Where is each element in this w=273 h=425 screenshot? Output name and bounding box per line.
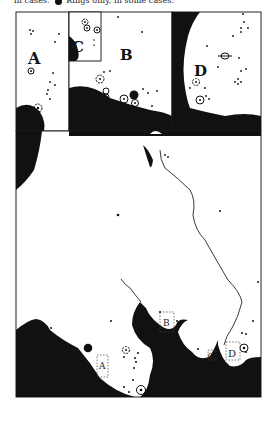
map-figure: A B bbox=[0, 0, 273, 425]
inset-c: C bbox=[69, 12, 101, 61]
inset-panels: A B bbox=[16, 12, 261, 131]
inset-c-label: C bbox=[72, 38, 84, 56]
main-box-c-label: C bbox=[208, 352, 213, 360]
main-box-d-label: D bbox=[228, 348, 236, 359]
inset-b-label: B bbox=[120, 46, 133, 64]
main-map: A B C D bbox=[16, 131, 261, 397]
main-box-a-label: A bbox=[98, 361, 106, 371]
main-box-b-label: B bbox=[163, 318, 170, 328]
inset-d: D bbox=[172, 12, 261, 131]
inset-a-label: A bbox=[27, 49, 41, 68]
inset-a: A bbox=[16, 12, 69, 131]
inset-d-label: D bbox=[194, 62, 207, 80]
